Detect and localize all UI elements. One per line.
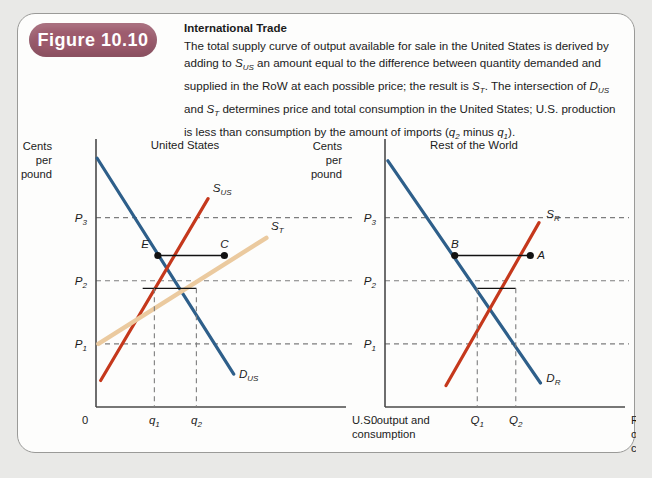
y-axis-label-line-3-a: pound [21, 168, 52, 180]
curve-s-t [98, 238, 266, 344]
y-axis-label-line-1-a: Cents [23, 140, 53, 152]
x-axis-label-line-1-b: Rest of World [631, 414, 636, 426]
chart-panel-b: DRSRBAP3P2P1Q1Q20Rest of the WorldCentsp… [311, 139, 636, 454]
chart-panel-a: DUSSUSSTECP3P2P1q1q20United StatesCentsp… [21, 139, 430, 454]
curve-label-d-r: DR [546, 371, 560, 387]
panel-tag-a: (a) [186, 453, 200, 454]
y-axis-label-line-2-a: per [36, 154, 52, 166]
x-tick-label-Q1: Q1 [471, 413, 484, 429]
point-marker-C [221, 252, 228, 259]
x-tick-label-q2: q2 [191, 413, 202, 429]
origin-label-a: 0 [82, 414, 88, 426]
point-marker-E [154, 252, 161, 259]
origin-label-b: 0 [371, 414, 377, 426]
panel-title-a: United States [151, 139, 220, 151]
y-tick-label-P1: P1 [75, 337, 87, 353]
point-label-B: B [451, 237, 459, 250]
x-axis-label-line-2-b: output and [631, 428, 636, 440]
y-axis-label-line-1-b: Cents [313, 140, 343, 152]
y-tick-label-P3: P3 [75, 211, 88, 227]
x-axis-label-line-3-b: consumption [631, 442, 636, 454]
curve-label-d-us: DUS [239, 367, 259, 383]
curve-label-s-t: ST [271, 219, 285, 235]
figure-number-label: Figure 10.10 [37, 30, 148, 51]
x-tick-label-q1: q1 [149, 413, 160, 429]
curve-d-r [388, 161, 541, 383]
point-marker-B [451, 252, 458, 259]
y-axis-label-line-3-b: pound [311, 168, 342, 180]
point-label-E: E [141, 237, 149, 250]
point-label-C: C [220, 237, 229, 250]
y-axis-label-line-2-b: per [326, 154, 342, 166]
panel-title-b: Rest of the World [430, 139, 518, 151]
y-tick-label-P2: P2 [75, 274, 88, 290]
curve-label-s-r: SR [546, 207, 560, 223]
y-tick-label-P1: P1 [364, 337, 376, 353]
panel-tag-b: (b) [475, 453, 489, 454]
curve-label-s-us: SUS [213, 181, 233, 197]
x-tick-label-Q2: Q2 [509, 413, 523, 429]
y-tick-label-P3: P3 [364, 211, 377, 227]
x-axis-label-line-2-a: consumption [352, 428, 415, 440]
y-tick-label-P2: P2 [364, 274, 377, 290]
point-label-A: A [536, 248, 545, 261]
figure-frame: Figure 10.10 International Trade The tot… [17, 13, 635, 453]
point-marker-A [527, 252, 534, 259]
figure-caption-title: International Trade [184, 21, 618, 36]
x-axis-label-line-1-a: U.S. output and [352, 414, 430, 426]
figure-page: Figure 10.10 International Trade The tot… [0, 0, 652, 478]
economics-diagram: DUSSUSSTECP3P2P1q1q20United StatesCentsp… [18, 118, 636, 454]
figure-number-badge: Figure 10.10 [29, 23, 157, 57]
charts-container: DUSSUSSTECP3P2P1q1q20United StatesCentsp… [18, 118, 636, 454]
